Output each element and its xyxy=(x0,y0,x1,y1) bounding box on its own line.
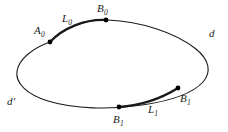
point-b1-right xyxy=(176,86,181,91)
label-d: d xyxy=(209,28,215,39)
point-b0 xyxy=(104,18,109,23)
label-d-prime: d′ xyxy=(7,96,15,107)
point-a0 xyxy=(48,40,53,45)
marked-points xyxy=(48,18,181,110)
label-l1: L1 xyxy=(148,104,158,115)
figure-canvas: A0 L0 B0 d d′ B1 L1 B1 xyxy=(0,0,228,132)
label-b1-bottom: B1 xyxy=(113,114,123,125)
label-b1-right: B1 xyxy=(180,93,190,104)
point-b1-bottom xyxy=(117,105,122,110)
label-b0: B0 xyxy=(97,3,107,14)
label-l0: L0 xyxy=(62,13,72,24)
label-a0: A0 xyxy=(34,25,44,36)
arc-l0 xyxy=(50,20,106,42)
